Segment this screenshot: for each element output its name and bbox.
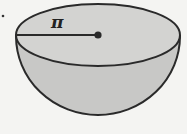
- stray-dot: [2, 15, 5, 18]
- hemisphere-diagram: π: [0, 0, 187, 134]
- center-point: [94, 31, 101, 38]
- radius-label: π: [50, 12, 64, 32]
